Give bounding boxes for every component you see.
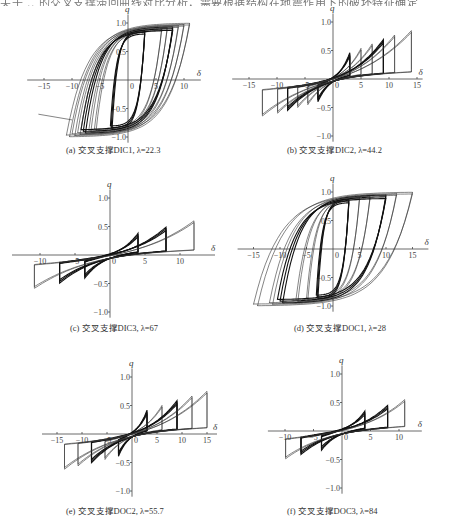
y-tick-label: −1.0 (115, 487, 130, 496)
y-tick-label: 0.5 (98, 223, 108, 232)
y-tick-label: 1.0 (330, 370, 340, 379)
y-tick-label: −1.0 (93, 308, 108, 317)
caption-d: (d) 交叉支撑DOC1, λ=28 (294, 321, 386, 333)
panel-e: −15−10−50510151.00.5−0.5−1.0δq (42, 358, 218, 496)
x-tick-label: 10 (180, 82, 188, 91)
x-tick-label: 5 (155, 436, 159, 445)
x-tick-label: 10 (176, 257, 184, 266)
x-tick-label: 10 (385, 81, 393, 90)
x-tick-label: 0 (335, 81, 339, 90)
x-tick-label: 15 (409, 251, 417, 260)
x-tick-label: 5 (369, 433, 373, 442)
x-tick-label: −10 (66, 82, 79, 91)
y-axis-label: q (129, 358, 134, 368)
x-tick-label: −15 (247, 251, 260, 260)
hysteresis-loop (262, 32, 411, 114)
panel-a: −15−10−505101.00.5−0.5−1.0δq (27, 4, 202, 142)
y-axis-label: q (339, 355, 344, 365)
y-tick-label: −0.5 (115, 459, 130, 468)
x-tick-label: 15 (203, 436, 211, 445)
caption-b: (b) 交叉支撑DIC2, λ=44.2 (287, 143, 382, 155)
y-tick-label: 1.0 (98, 194, 108, 203)
x-tick-label: 10 (395, 433, 403, 442)
y-tick-label: −1.0 (325, 484, 340, 493)
y-tick-label: −1.0 (316, 132, 331, 141)
caption-c: (c) 交叉支撑DIC3, λ=67 (70, 321, 158, 333)
x-axis-label: δ (419, 67, 424, 77)
panel-d: −15−10−50510151.00.5−0.5−1.0δq (238, 173, 430, 311)
x-tick-label: 5 (359, 81, 363, 90)
x-tick-label: 0 (130, 82, 134, 91)
panel-c: −10−505101.00.5−0.5−1.0δq (12, 179, 216, 317)
y-tick-label: 1.0 (321, 18, 331, 27)
x-tick-label: 15 (413, 81, 421, 90)
x-tick-label: 10 (178, 436, 186, 445)
y-tick-label: 0.5 (330, 399, 340, 408)
hysteresis-loop (34, 223, 194, 287)
x-tick-label: −10 (76, 436, 89, 445)
y-tick-label: 1.0 (120, 373, 130, 382)
x-tick-label: −15 (51, 436, 64, 445)
y-tick-label: 0.5 (321, 47, 331, 56)
y-axis-label: q (330, 3, 335, 13)
x-axis-label: δ (197, 68, 202, 78)
y-tick-label: 1.0 (321, 188, 331, 197)
x-tick-label: −15 (243, 81, 256, 90)
x-tick-label: −10 (279, 433, 292, 442)
plot-canvas: −15−10−505101.00.5−0.5−1.0δq−15−10−50510… (0, 0, 449, 523)
y-axis-label: q (125, 4, 130, 14)
tail-curve (38, 114, 72, 120)
x-tick-label: 0 (344, 433, 348, 442)
caption-a: (a) 交叉支撑DIC1, λ=22.3 (66, 143, 161, 155)
y-tick-label: 0.5 (120, 402, 130, 411)
y-tick-label: 1.0 (116, 19, 126, 28)
x-tick-label: 0 (134, 436, 138, 445)
y-tick-label: −0.5 (316, 104, 331, 113)
panel-b: −15−10−50510151.00.5−0.5−1.0δq (232, 3, 423, 141)
y-tick-label: −0.5 (325, 456, 340, 465)
caption-e: (e) 交叉支撑DOC2, λ=55.7 (66, 504, 164, 516)
x-axis-label: δ (418, 419, 423, 429)
x-tick-label: 0 (335, 251, 339, 260)
y-tick-label: −1.0 (316, 302, 331, 311)
x-axis-label: δ (213, 422, 218, 432)
y-axis-label: q (330, 173, 335, 183)
panel-f: −10−505101.00.5−0.5−1.0δq (268, 355, 423, 493)
y-axis-label: q (107, 179, 112, 189)
x-tick-label: −15 (38, 82, 51, 91)
x-tick-label: 0 (112, 257, 116, 266)
x-axis-label: δ (211, 243, 216, 253)
x-axis-label: δ (424, 237, 429, 247)
x-tick-label: 5 (143, 257, 147, 266)
y-tick-label: −0.5 (93, 280, 108, 289)
caption-f: (f) 交叉支撑DOC3, λ=84 (287, 504, 377, 516)
